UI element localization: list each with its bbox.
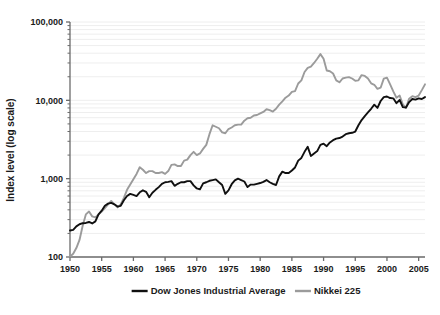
x-tick-label: 2000 — [377, 264, 397, 274]
x-tick-label: 1985 — [282, 264, 302, 274]
x-tick-label: 1950 — [60, 264, 80, 274]
index-level-log-chart: 1001,00010,000100,000 195019551960196519… — [0, 0, 440, 315]
y-axis-title: Index level (log scale) — [5, 98, 16, 201]
x-tick-label: 1990 — [314, 264, 334, 274]
x-tick-label: 1980 — [250, 264, 270, 274]
legend-label-nikkei: Nikkei 225 — [314, 285, 361, 296]
y-tick-label: 1,000 — [40, 174, 63, 184]
chart-container: 1001,00010,000100,000 195019551960196519… — [0, 0, 440, 315]
chart-legend: Dow Jones Industrial AverageNikkei 225 — [132, 285, 362, 296]
x-tick-label: 2005 — [409, 264, 429, 274]
x-tick-label: 1975 — [218, 264, 238, 274]
x-tick-label: 1955 — [92, 264, 112, 274]
legend-label-dow-jones: Dow Jones Industrial Average — [151, 285, 286, 296]
y-tick-label: 100,000 — [30, 17, 63, 27]
x-tick-label: 1995 — [345, 264, 365, 274]
y-tick-label: 100 — [48, 252, 63, 262]
x-tick-label: 1970 — [187, 264, 207, 274]
y-tick-label: 10,000 — [35, 96, 63, 106]
x-tick-label: 1965 — [155, 264, 175, 274]
x-tick-label: 1960 — [123, 264, 143, 274]
